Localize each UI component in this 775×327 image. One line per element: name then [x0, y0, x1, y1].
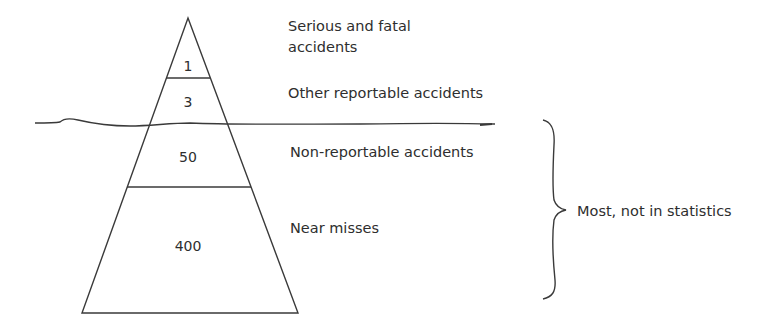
water-line — [35, 119, 495, 126]
label-near-misses: Near misses — [290, 218, 379, 238]
label-serious-fatal-line1: Serious and fatal — [288, 16, 411, 36]
label-non-reportable: Non-reportable accidents — [290, 142, 474, 162]
tier-value-400: 400 — [175, 238, 202, 254]
label-serious-fatal-line2: accidents — [288, 37, 357, 57]
tier-value-50: 50 — [179, 149, 197, 165]
water-line-tail — [480, 124, 492, 125]
tier-value-3: 3 — [184, 94, 193, 110]
tier-value-1: 1 — [184, 58, 193, 74]
brace-label: Most, not in statistics — [577, 201, 732, 221]
label-other-reportable: Other reportable accidents — [288, 83, 483, 103]
curly-brace — [543, 120, 566, 299]
iceberg-diagram — [0, 0, 775, 327]
